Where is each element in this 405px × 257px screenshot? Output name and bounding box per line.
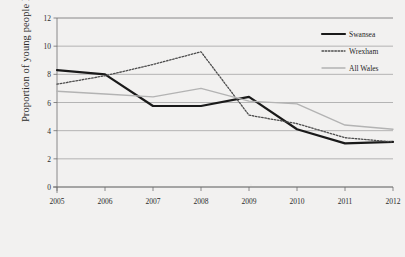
plot-area: SwanseaWrexhamAll Wales bbox=[0, 0, 405, 257]
chart-legend: SwanseaWrexhamAll Wales bbox=[322, 30, 379, 73]
legend-label-swansea: Swansea bbox=[349, 30, 376, 39]
series-line-all-wales bbox=[57, 88, 393, 129]
chart-container: Proportion of young people NEET% 0246810… bbox=[0, 0, 405, 257]
legend-label-all-wales: All Wales bbox=[349, 64, 379, 73]
x-axis-ticks bbox=[57, 187, 393, 191]
gridlines bbox=[57, 46, 393, 187]
series-line-wrexham bbox=[57, 52, 393, 142]
legend-label-wrexham: Wrexham bbox=[349, 47, 378, 56]
series-line-swansea bbox=[57, 70, 393, 143]
series-lines bbox=[57, 52, 393, 144]
axis-frame bbox=[53, 18, 393, 193]
